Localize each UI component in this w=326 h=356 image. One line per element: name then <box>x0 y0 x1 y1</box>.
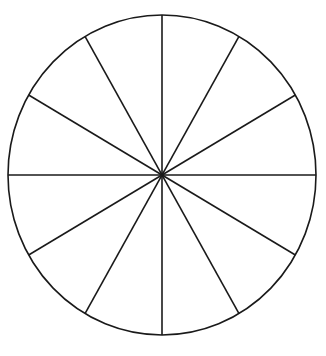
segment-dividers <box>8 15 316 335</box>
divided-circle-diagram <box>0 0 326 356</box>
